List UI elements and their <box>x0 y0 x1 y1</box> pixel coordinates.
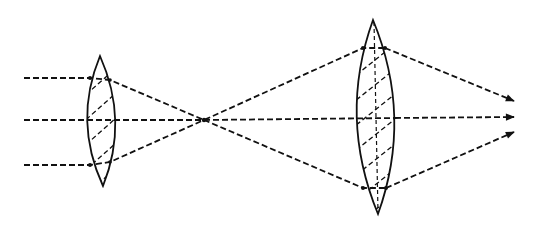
ray-bottom <box>24 120 514 188</box>
focal-point <box>202 118 206 122</box>
ray-middle <box>24 117 514 120</box>
left-lens-hatching <box>80 60 125 200</box>
ray-top <box>24 48 514 120</box>
left-lens <box>80 56 125 200</box>
right-lens <box>350 20 400 230</box>
lens-ray-diagram <box>0 0 538 234</box>
